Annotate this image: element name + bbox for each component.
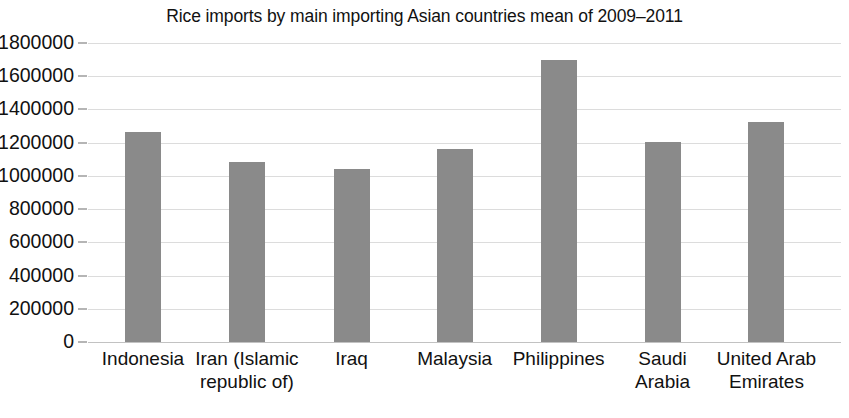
- y-tick-mark: [78, 308, 87, 309]
- y-tick-mark: [78, 342, 87, 343]
- y-tick-label: 1200000: [0, 133, 74, 153]
- y-axis: 0200000400000600000800000100000012000001…: [0, 43, 88, 342]
- bar: [645, 142, 681, 342]
- bar: [437, 149, 473, 342]
- y-tick-mark: [78, 209, 87, 210]
- y-tick-mark: [78, 109, 87, 110]
- bar: [748, 122, 784, 342]
- bar: [229, 162, 265, 342]
- y-tick-mark: [78, 242, 87, 243]
- y-tick-mark: [78, 76, 87, 77]
- bar: [125, 132, 161, 342]
- x-tick-label-line: United Arab: [691, 347, 841, 370]
- y-tick-mark: [78, 175, 87, 176]
- y-tick-label: 1600000: [0, 66, 74, 86]
- chart-title: Rice imports by main importing Asian cou…: [0, 6, 849, 27]
- y-tick-mark: [78, 43, 87, 44]
- y-tick-label: 1400000: [0, 100, 74, 120]
- x-axis: IndonesiaIran (Islamicrepublic of)IraqMa…: [88, 347, 841, 417]
- bar-series: [88, 43, 841, 342]
- y-tick-label: 200000: [9, 299, 74, 319]
- bar-chart-figure: Rice imports by main importing Asian cou…: [0, 0, 849, 418]
- y-tick-label: 800000: [9, 199, 74, 219]
- y-tick-label: 1800000: [0, 33, 74, 53]
- plot-area: [88, 43, 841, 342]
- bar: [334, 169, 370, 342]
- y-tick-mark: [78, 275, 87, 276]
- y-tick-mark: [78, 142, 87, 143]
- y-tick-label: 400000: [9, 266, 74, 286]
- bar: [541, 60, 577, 342]
- y-tick-label: 600000: [9, 233, 74, 253]
- x-tick-label: United ArabEmirates: [691, 347, 841, 393]
- x-tick-label-line: Emirates: [691, 370, 841, 393]
- gridline: [88, 342, 841, 343]
- x-tick-label-line: republic of): [172, 370, 322, 393]
- y-tick-label: 1000000: [0, 166, 74, 186]
